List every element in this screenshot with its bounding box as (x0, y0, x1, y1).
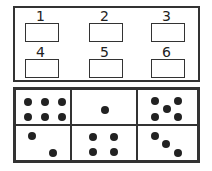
dice-card-four (71, 125, 137, 161)
pip-icon (24, 113, 32, 121)
pip-icon (174, 113, 182, 121)
answer-label: 6 (150, 45, 183, 59)
pip-icon (49, 149, 57, 157)
answer-label: 3 (150, 9, 183, 23)
answer-input[interactable] (25, 59, 59, 78)
answer-label: 4 (24, 45, 57, 59)
dice-card-three (137, 125, 198, 161)
pip-icon (151, 113, 159, 121)
dice-card-five (137, 89, 198, 125)
answer-input[interactable] (151, 23, 185, 42)
dice-card-one (71, 89, 137, 125)
answer-label: 2 (88, 9, 121, 23)
pip-icon (58, 113, 66, 121)
pip-icon (101, 106, 109, 114)
pip-icon (41, 113, 49, 121)
pip-icon (24, 98, 32, 106)
pip-icon (89, 148, 97, 156)
dice-card-two (15, 125, 71, 161)
pip-icon (151, 132, 159, 140)
dice-card-six (15, 89, 71, 125)
pip-icon (174, 97, 182, 105)
pip-icon (163, 105, 171, 113)
pip-icon (174, 149, 182, 157)
pip-icon (151, 97, 159, 105)
answer-label: 5 (88, 45, 121, 59)
pip-icon (58, 98, 66, 106)
pip-icon (41, 98, 49, 106)
pip-icon (110, 148, 118, 156)
answer-input[interactable] (89, 59, 123, 78)
pip-icon (110, 133, 118, 141)
answer-label: 1 (24, 9, 57, 23)
pip-icon (28, 132, 36, 140)
answer-input[interactable] (25, 23, 59, 42)
answer-input[interactable] (151, 59, 185, 78)
answer-box-panel: 1 2 3 4 5 6 (13, 6, 200, 82)
pip-icon (162, 140, 170, 148)
dice-grid (13, 87, 200, 163)
answer-input[interactable] (89, 23, 123, 42)
pip-icon (89, 133, 97, 141)
